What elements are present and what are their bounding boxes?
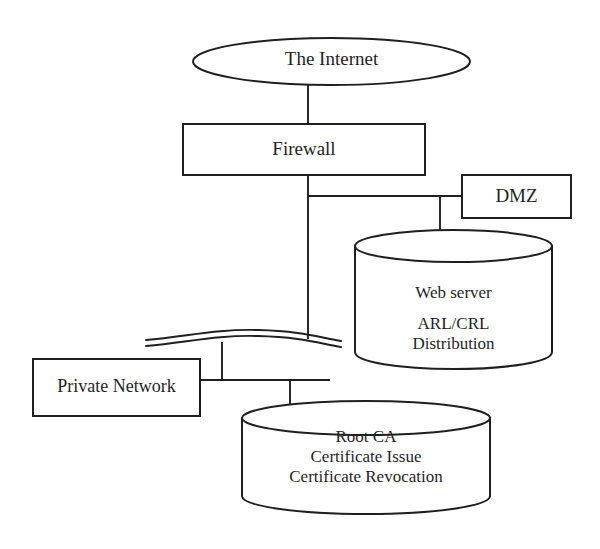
- network-bus-wavy-line: [146, 330, 341, 347]
- internet-node[interactable]: [193, 38, 470, 85]
- network-diagram-canvas: The Internet Firewall DMZ Web server ARL…: [0, 0, 600, 549]
- web-server-node[interactable]: [355, 230, 552, 369]
- firewall-node[interactable]: [183, 124, 425, 175]
- root-ca-node[interactable]: [242, 401, 490, 514]
- private-network-node[interactable]: [33, 359, 200, 416]
- dmz-node[interactable]: [462, 175, 571, 218]
